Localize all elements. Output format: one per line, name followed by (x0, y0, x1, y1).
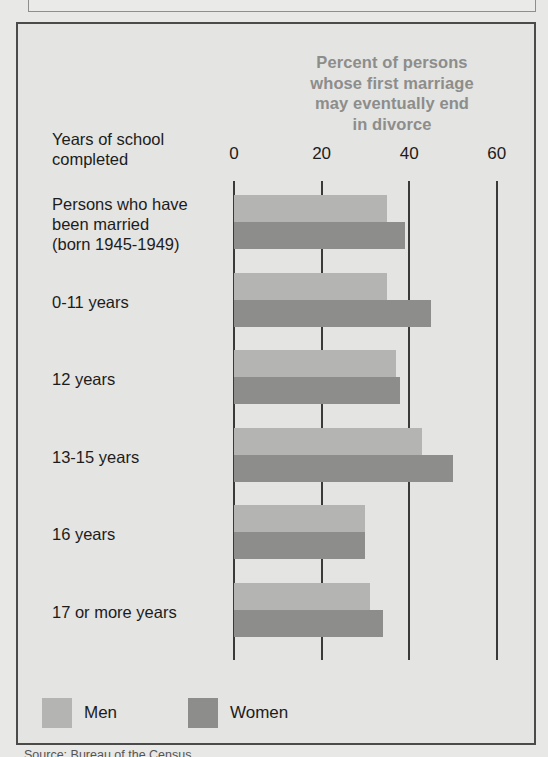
category-label-line: (born 1945-1949) (52, 234, 242, 254)
source-note: Source: Bureau of the Census (24, 748, 524, 757)
bar-women (234, 377, 400, 404)
bar-men (234, 583, 370, 610)
category-label: 13-15 years (52, 447, 242, 467)
category-label-line: 17 or more years (52, 602, 242, 622)
x-tick-label: 20 (302, 144, 342, 164)
legend-label: Men (84, 703, 117, 723)
category-label-line: 16 years (52, 524, 242, 544)
category-label-line: Persons who have (52, 194, 242, 214)
category-label: 16 years (52, 524, 242, 544)
legend-item-women[interactable]: Women (188, 698, 288, 728)
bar-men (234, 350, 396, 377)
bar-women (234, 300, 431, 327)
legend-label: Women (230, 703, 288, 723)
category-label-line: been married (52, 214, 242, 234)
bar-men (234, 428, 422, 455)
category-label: 17 or more years (52, 602, 242, 622)
chart-legend: MenWomen (18, 698, 538, 738)
legend-swatch-icon (188, 698, 218, 728)
bar-women (234, 610, 383, 637)
category-label-line: 12 years (52, 369, 242, 389)
bar-men (234, 505, 365, 532)
category-label-line: 13-15 years (52, 447, 242, 467)
category-label-line: 0-11 years (52, 292, 242, 312)
chart-figure: Percent of personswhose first marriagema… (16, 22, 536, 745)
x-tick-label: 0 (214, 144, 254, 164)
plot-area: 0204060Persons who havebeen married(born… (18, 24, 538, 747)
legend-item-men[interactable]: Men (42, 698, 117, 728)
top-partial-box (28, 0, 536, 12)
bar-men (234, 195, 387, 222)
x-tick-label: 40 (389, 144, 429, 164)
category-label: 0-11 years (52, 292, 242, 312)
category-label: Persons who havebeen married(born 1945-1… (52, 194, 242, 254)
bar-men (234, 273, 387, 300)
bar-women (234, 455, 453, 482)
x-tick-label: 60 (477, 144, 517, 164)
gridline (496, 181, 498, 660)
bar-women (234, 532, 365, 559)
legend-swatch-icon (42, 698, 72, 728)
gridline (408, 181, 410, 660)
bar-women (234, 222, 405, 249)
category-label: 12 years (52, 369, 242, 389)
